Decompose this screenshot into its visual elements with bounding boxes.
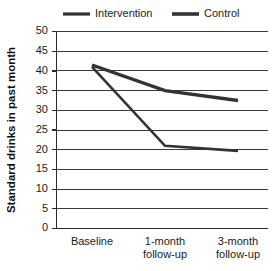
legend-label-intervention: Intervention [95,7,152,19]
x-label-1month-line1: 1-month [145,235,185,247]
y-label-50: 50 [36,24,48,36]
y-label-30: 30 [36,103,48,115]
x-label-1month-line2: follow-up [143,248,187,260]
y-label-35: 35 [36,84,48,96]
x-label-baseline: Baseline [71,235,113,247]
legend-label-control: Control [204,7,239,19]
y-label-5: 5 [42,202,48,214]
y-label-45: 45 [36,44,48,56]
y-label-15: 15 [36,162,48,174]
y-label-25: 25 [36,123,48,135]
y-label-40: 40 [36,64,48,76]
line-chart: Intervention Control [0,0,280,271]
y-axis-title: Standard drinks in past month [5,47,17,213]
chart-canvas: Intervention Control [0,0,280,271]
y-label-10: 10 [36,182,48,194]
x-label-3month-line2: follow-up [216,248,260,260]
y-label-0: 0 [42,221,48,233]
y-label-20: 20 [36,143,48,155]
x-label-3month-line1: 3-month [218,235,258,247]
